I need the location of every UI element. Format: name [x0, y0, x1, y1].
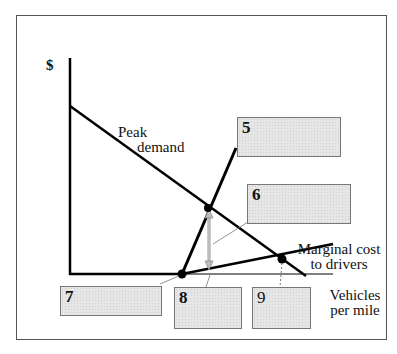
- marginal-cost-label: Marginal cost to drivers: [294, 242, 384, 272]
- intersection-point-peak: [204, 204, 212, 212]
- intersection-point-origin: [178, 270, 187, 279]
- x-axis-label-line1: Vehicles: [325, 288, 385, 303]
- peak-demand-label-line2: demand: [118, 140, 178, 155]
- answer-box-6[interactable]: 6: [247, 184, 351, 224]
- answer-box-7[interactable]: 7: [60, 286, 162, 316]
- answer-box-9-label: 9: [257, 289, 266, 307]
- peak-demand-label-line1: Peak: [118, 125, 178, 140]
- x-axis-label: Vehicles per mile: [325, 288, 385, 318]
- answer-box-7-label: 7: [65, 288, 74, 306]
- peak-demand-label: Peak demand: [118, 125, 178, 155]
- answer-box-6-label: 6: [252, 186, 261, 204]
- x-axis-label-line2: per mile: [325, 303, 385, 318]
- marginal-cost-label-line2: to drivers: [294, 257, 384, 272]
- answer-box-8[interactable]: 8: [174, 287, 242, 329]
- answer-box-5[interactable]: 5: [237, 117, 341, 157]
- answer-box-9[interactable]: 9: [252, 287, 311, 329]
- answer-box-8-label: 8: [179, 289, 188, 307]
- intersection-point-equilibrium: [278, 255, 287, 264]
- marginal-cost-label-line1: Marginal cost: [294, 242, 384, 257]
- y-axis-label: $: [46, 58, 54, 73]
- answer-box-5-label: 5: [242, 119, 251, 137]
